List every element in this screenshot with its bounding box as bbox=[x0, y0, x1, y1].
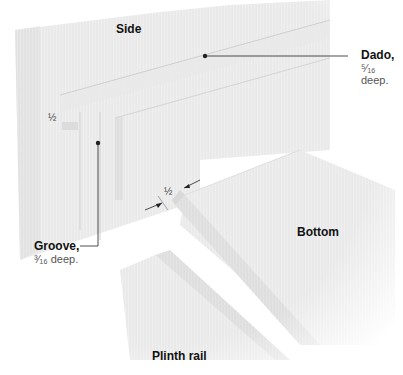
label-groove: Groove, bbox=[34, 239, 79, 253]
label-dim-gap: ½ bbox=[164, 186, 172, 197]
label-plinth-rail: Plinth rail bbox=[152, 349, 207, 363]
label-dado-depth: ⁵⁄₁₆ deep. bbox=[361, 62, 403, 86]
label-side: Side bbox=[116, 22, 141, 36]
label-groove-depth: ³⁄₁₆ deep. bbox=[34, 253, 78, 265]
label-dado: Dado, bbox=[361, 48, 394, 62]
woodworking-joint-diagram bbox=[0, 0, 403, 375]
label-dim-left: ½ bbox=[48, 112, 56, 123]
label-bottom: Bottom bbox=[297, 225, 339, 239]
